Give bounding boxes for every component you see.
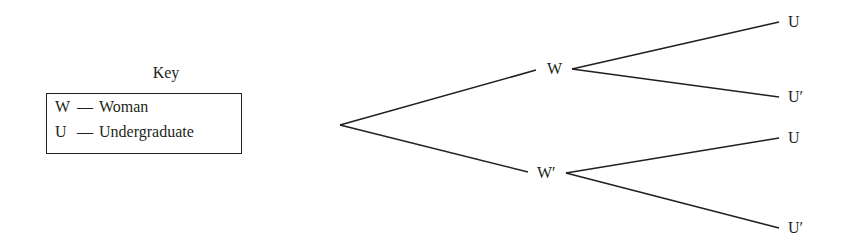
branch-wprime-u [566, 138, 779, 173]
leaf-wprime-u-prime: U′ [788, 220, 803, 236]
branch-w-uprime [572, 69, 779, 97]
leaf-w-u-prime: U′ [788, 89, 803, 105]
node-w: W [547, 61, 562, 77]
leaf-wprime-u: U [788, 130, 800, 146]
branch-root-wprime [340, 125, 528, 172]
branch-w-u [572, 22, 779, 69]
tree-branches [0, 0, 843, 251]
leaf-w-u: U [788, 14, 800, 30]
branch-wprime-uprime [566, 173, 779, 228]
node-w-prime: W′ [537, 165, 556, 181]
branch-root-w [340, 70, 536, 125]
